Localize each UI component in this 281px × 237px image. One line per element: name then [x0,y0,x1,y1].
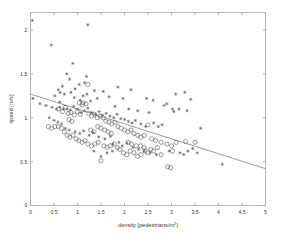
data-point-star [85,75,88,78]
data-point-star [93,89,96,92]
data-point-star [191,147,194,150]
data-point-circle [86,82,90,86]
data-point-star [185,109,188,112]
data-point-star [57,88,60,91]
y-tick-label: 2 [24,27,27,33]
data-point-star [74,87,77,90]
data-point-star [74,130,77,133]
data-point-star [186,150,189,153]
x-tick-label: 1 [76,209,79,215]
data-point-star [99,155,102,158]
data-point-star [102,90,105,93]
x-tick-label: 0 [29,209,32,215]
data-point-star [134,119,137,122]
data-point-circle [125,153,129,157]
data-point-circle [66,111,70,115]
data-point-circle [165,142,169,146]
x-tick-label: 3.5 [191,209,198,215]
data-point-star [53,94,56,97]
data-point-star [127,120,130,123]
y-tick-label: 1.5 [20,71,27,77]
data-point-star [78,83,81,86]
x-tick-label: 0.5 [50,209,57,215]
data-point-circle [129,142,133,146]
data-point-star [52,119,55,122]
x-tick-label: 4 [217,209,220,215]
data-point-star [111,150,114,153]
data-point-star [121,144,124,147]
data-point-star [97,136,100,139]
data-point-star [189,98,192,101]
data-point-circle [132,151,136,155]
data-point-circle [142,133,146,137]
scatter-plot: 00.511.522.533.544.55 00.511.52 density … [0,0,281,237]
x-tick-label: 1.5 [97,209,104,215]
regression-line [31,94,266,169]
data-point-circle [168,166,172,170]
data-point-star [86,107,89,110]
x-tick-label: 5 [264,209,267,215]
data-point-circle [166,165,170,169]
data-point-star [161,123,164,126]
data-point-star [82,129,85,132]
data-point-star [174,93,177,96]
data-point-circle [84,102,88,106]
figure-container: 00.511.522.533.544.55 00.511.52 density … [0,0,281,237]
data-point-star [31,19,34,22]
data-point-circle [72,113,76,117]
data-point-circle [134,144,138,148]
data-point-star [98,110,101,113]
data-point-star [171,107,174,110]
data-point-star [147,111,150,114]
x-axis-title: density [pedestrians/m2] [118,220,178,228]
data-point-star [155,153,158,156]
data-point-star [130,88,133,91]
data-point-star [69,91,72,94]
data-point-circle [129,128,133,132]
data-point-star [44,104,47,107]
data-point-circle [159,153,163,157]
data-point-circle [153,138,157,142]
data-point-star [60,122,63,125]
y-tick-label: 0.5 [20,159,27,165]
data-point-star [196,151,199,154]
data-point-star [96,97,99,100]
data-point-star [86,23,89,26]
regression-line-layer [31,94,266,169]
data-point-star [115,113,118,116]
data-point-star [221,163,224,166]
data-point-star [183,91,186,94]
data-point-star [119,117,122,120]
data-point-star [123,118,126,121]
data-point-star [117,141,120,144]
data-point-star [88,134,91,137]
data-point-star [116,86,119,89]
data-point-circle [169,144,173,148]
data-point-circle [138,144,142,148]
data-point-star [103,137,106,140]
data-point-star [67,129,70,132]
data-point-star [122,97,125,100]
x-tick-label: 4.5 [238,209,245,215]
data-point-circle [139,153,143,157]
data-point-circle [155,146,159,150]
data-point-star [51,106,54,109]
data-point-star [152,121,155,124]
x-tick-label: 2.5 [144,209,151,215]
y-axis-title: speed [m/s] [8,94,14,123]
data-point-star [112,116,115,119]
data-point-star [165,102,168,105]
data-point-star [85,93,88,96]
y-tick-label: 0 [24,202,27,208]
data-point-star [73,96,76,99]
data-point-star [89,100,92,103]
data-point-star [162,104,165,107]
data-point-star [157,125,160,128]
data-point-circle [78,112,82,116]
data-point-star [61,85,64,88]
data-point-star [56,121,59,124]
data-point-circle [170,149,174,153]
data-point-circle [193,140,197,144]
data-point-star [48,116,51,119]
data-point-star [59,91,62,94]
